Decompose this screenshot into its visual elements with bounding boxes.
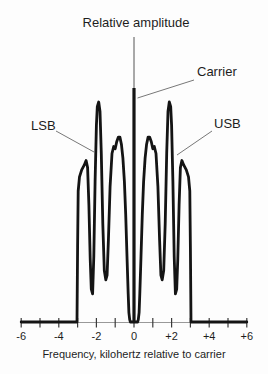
lsb-leader-line <box>56 131 94 152</box>
x-tick-label: 0 <box>131 331 137 342</box>
x-tick-label: -4 <box>54 331 64 342</box>
x-tick-label: -6 <box>16 331 26 342</box>
x-tick-label: +6 <box>241 331 254 342</box>
chart-title: Relative amplitude <box>83 16 190 30</box>
usb-leader-line <box>177 131 212 155</box>
carrier-leader-line <box>138 80 195 98</box>
spectrum-plot <box>0 0 268 374</box>
carrier-annotation-label: Carrier <box>197 65 237 79</box>
x-tick-label: -2 <box>92 331 102 342</box>
lsb-annotation-label: LSB <box>31 119 56 133</box>
x-axis-title: Frequency, kilohertz relative to carrier <box>42 349 225 361</box>
usb-annotation-label: USB <box>214 117 241 131</box>
x-tick-label: +2 <box>165 331 178 342</box>
spectrum-figure: Relative amplitude Carrier LSB USB Frequ… <box>0 0 268 374</box>
x-tick-label: +4 <box>203 331 216 342</box>
